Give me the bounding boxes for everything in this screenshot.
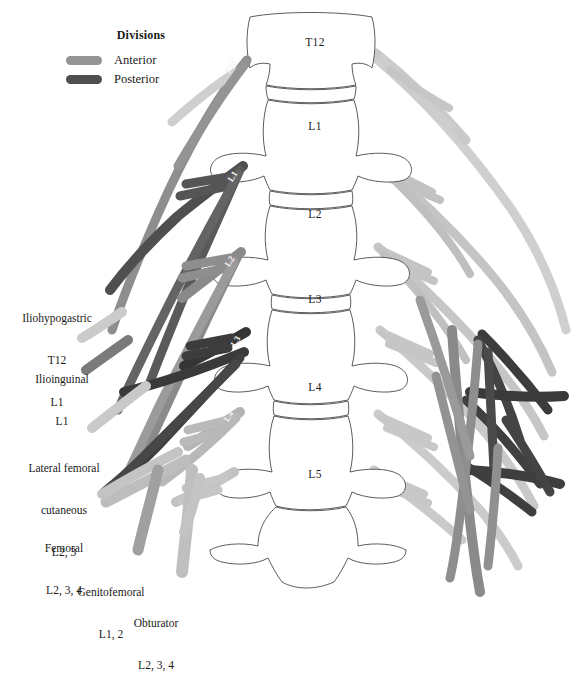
posterior-swatch [66, 75, 102, 84]
vertebra-label-L2: L2 [308, 208, 321, 220]
label-lfc-line1: Lateral femoral [6, 461, 122, 475]
label-obturator: Obturator L2, 3, 4 [106, 588, 206, 676]
legend-title: Divisions [66, 28, 216, 43]
label-ilioinguinal-line1: Ilioinguinal [12, 372, 112, 386]
label-iliohypogastric-line1: Iliohypogastric [2, 311, 112, 325]
vertebra-body-L5 [210, 507, 406, 588]
vertebra-label-T12: T12 [305, 36, 324, 48]
label-obturator-line2: L2, 3, 4 [106, 658, 206, 672]
legend-row-posterior: Posterior [66, 70, 216, 89]
vertebra-label-L3: L3 [308, 293, 321, 305]
vertebra-body-L4 [217, 416, 406, 510]
legend-label-posterior: Posterior [114, 72, 159, 87]
vertebra-label-L4: L4 [308, 381, 321, 393]
anterior-swatch [66, 56, 102, 65]
vertebra-body-T12 [247, 13, 375, 89]
vertebra-label-L5: L5 [308, 468, 321, 480]
vertebra-label-L1: L1 [308, 120, 321, 132]
label-ilioinguinal-line2: L1 [12, 414, 112, 428]
legend: Divisions Anterior Posterior [66, 28, 216, 89]
label-femoral-line1: Femoral [14, 541, 114, 555]
label-obturator-line1: Obturator [106, 616, 206, 630]
legend-label-anterior: Anterior [114, 53, 156, 68]
legend-row-anterior: Anterior [66, 51, 216, 70]
vertebra-body-L1 [211, 100, 412, 194]
